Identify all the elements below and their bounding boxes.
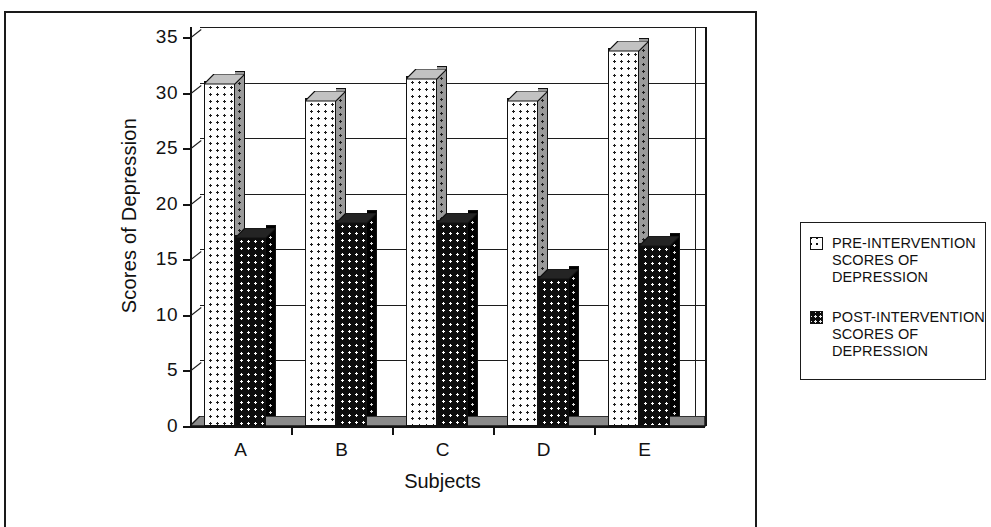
- x-axis-label-A: A: [234, 439, 247, 461]
- legend-label: PRE-INTERVENTION SCORES OF DEPRESSION: [832, 235, 976, 286]
- chart-legend: PRE-INTERVENTION SCORES OF DEPRESSIONPOS…: [800, 222, 986, 380]
- plot-right-edge-inner: [695, 27, 696, 426]
- bar-front-face: [305, 98, 336, 426]
- bar-side-face: [569, 266, 579, 416]
- bar-front-face: [639, 243, 670, 426]
- y-axis-tick-label: 15: [156, 249, 178, 271]
- bar-top-face: [538, 266, 579, 276]
- bar-top-face: [437, 210, 478, 220]
- y-axis-line: [190, 27, 192, 426]
- bar-side-face: [670, 233, 680, 416]
- y-axis-tick-label: 10: [156, 304, 178, 326]
- bar-front-face: [336, 220, 367, 426]
- x-axis-label-D: D: [537, 439, 551, 461]
- bar-front-face: [235, 235, 266, 426]
- bar-top-face: [336, 210, 377, 220]
- bar-front-face: [538, 276, 569, 426]
- gridline-riser: [191, 196, 202, 205]
- bar-E-pre: [608, 48, 639, 426]
- bar-A-pre: [204, 81, 235, 426]
- gridline-riser: [191, 251, 202, 260]
- gridline: [200, 27, 705, 28]
- x-axis-label-B: B: [335, 439, 348, 461]
- bar-front-face: [437, 220, 468, 426]
- bar-C-pre: [406, 76, 437, 426]
- y-axis-tick-label: 30: [156, 82, 178, 104]
- x-axis-line: [190, 426, 705, 428]
- x-axis-title: Subjects: [190, 470, 695, 493]
- bar-chart: Scores of Depression 05101520253035 ABCD…: [0, 0, 757, 527]
- y-axis-title: Scores of Depression: [118, 118, 144, 378]
- bar-side-face: [266, 225, 276, 416]
- y-axis-tick-label: 0: [167, 415, 178, 437]
- legend-label: POST-INTERVENTION SCORES OF DEPRESSION: [832, 309, 985, 360]
- bar-top-face: [204, 71, 245, 81]
- bar-front-face: [204, 81, 235, 426]
- x-axis-tick: [493, 426, 495, 435]
- bar-top-face: [406, 66, 447, 76]
- gridline-riser: [191, 85, 202, 94]
- bar-E-post: [639, 243, 670, 426]
- legend-swatch-post-icon: [810, 311, 823, 324]
- y-axis-tick-label: 35: [156, 26, 178, 48]
- bar-front-face: [406, 76, 437, 426]
- legend-entry-post: POST-INTERVENTION SCORES OF DEPRESSION: [810, 309, 985, 360]
- x-axis-label-C: C: [436, 439, 450, 461]
- x-axis-tick: [392, 426, 394, 435]
- x-axis-tick: [291, 426, 293, 435]
- y-axis-title-text: Scores of Depression: [118, 118, 141, 313]
- gridline-riser: [191, 140, 202, 149]
- gridline-riser: [191, 363, 202, 372]
- bar-C-post: [437, 220, 468, 426]
- bar-front-face: [507, 98, 538, 426]
- bar-top-face: [305, 88, 346, 98]
- gridline-riser: [191, 307, 202, 316]
- legend-entry-pre: PRE-INTERVENTION SCORES OF DEPRESSION: [810, 235, 976, 286]
- bar-top-face: [639, 233, 680, 243]
- x-axis-label-E: E: [638, 439, 651, 461]
- gridline-riser: [191, 29, 202, 38]
- bar-top-face: [507, 88, 548, 98]
- bar-B-pre: [305, 98, 336, 426]
- plot-area: 05101520253035 ABCDE: [190, 37, 695, 426]
- bar-top-face: [235, 225, 276, 235]
- bar-D-post: [538, 276, 569, 426]
- y-axis-tick-label: 5: [167, 360, 178, 382]
- bar-front-face: [608, 48, 639, 426]
- bar-side-face: [468, 210, 478, 416]
- bar-side-face: [367, 210, 377, 416]
- y-axis-tick-label: 20: [156, 193, 178, 215]
- bar-D-pre: [507, 98, 538, 426]
- bar-top-face: [608, 38, 649, 48]
- legend-swatch-pre-icon: [810, 237, 823, 250]
- bar-A-post: [235, 235, 266, 426]
- bar-B-post: [336, 220, 367, 426]
- y-axis-tick-label: 25: [156, 137, 178, 159]
- plot-right-edge-outer: [705, 27, 707, 426]
- x-axis-tick: [594, 426, 596, 435]
